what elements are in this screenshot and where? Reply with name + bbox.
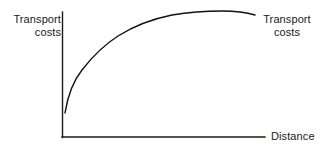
transport-cost-curve: [65, 11, 255, 113]
curve-annotation-label: Transport costs: [255, 13, 319, 38]
x-axis-label: Distance: [271, 130, 326, 143]
transport-cost-distance-figure: Transport costs Transport costs Distance: [0, 0, 326, 151]
y-axis-label: Transport costs: [6, 13, 61, 38]
